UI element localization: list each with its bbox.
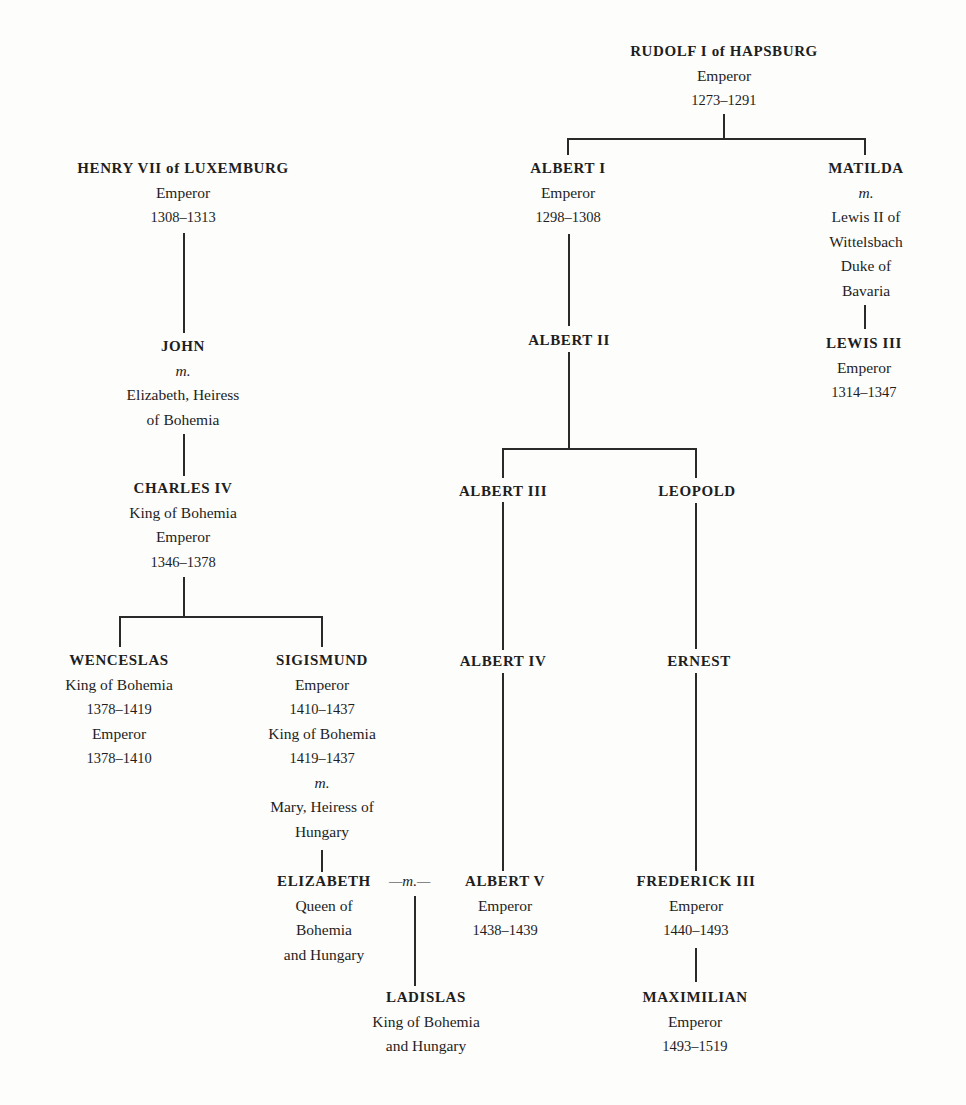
- edge-line: [183, 233, 185, 333]
- marriage-marker: m.: [828, 181, 904, 206]
- spouse-text: Bavaria: [828, 279, 904, 304]
- person-elizabeth: ELIZABETH Queen of Bohemia and Hungary: [277, 869, 371, 967]
- spouse-text: Duke of: [828, 254, 904, 279]
- marriage-marker: m.: [127, 359, 240, 384]
- person-title: and Hungary: [277, 943, 371, 968]
- spouse-text: Mary, Heiress of: [268, 795, 376, 820]
- person-name: LADISLAS: [372, 985, 480, 1010]
- person-ernest: ERNEST: [667, 649, 731, 674]
- person-title: Emperor: [530, 181, 605, 206]
- edge-line: [695, 448, 697, 478]
- person-years: 1273–1291: [630, 88, 818, 113]
- edge-line: [502, 502, 504, 650]
- person-title: King of Bohemia: [129, 501, 237, 526]
- edge-line: [568, 234, 570, 326]
- edge-line: [723, 114, 725, 139]
- person-name: ALBERT I: [530, 156, 605, 181]
- person-name: ELIZABETH: [277, 869, 371, 894]
- person-title: Emperor: [630, 64, 818, 89]
- spouse-text: Wittelsbach: [828, 230, 904, 255]
- person-albert-iii: ALBERT III: [459, 479, 547, 504]
- person-matilda: MATILDA m. Lewis II of Wittelsbach Duke …: [828, 156, 904, 303]
- person-name: SIGISMUND: [268, 648, 376, 673]
- person-years: 1298–1308: [530, 205, 605, 230]
- person-name: ALBERT II: [528, 328, 610, 353]
- person-years: 1438–1439: [465, 918, 545, 943]
- person-title: Queen of: [277, 894, 371, 919]
- person-lewis-iii: LEWIS III Emperor 1314–1347: [826, 331, 902, 405]
- person-years: 1493–1519: [642, 1034, 747, 1059]
- person-leopold: LEOPOLD: [658, 479, 736, 504]
- person-henry: HENRY VII of LUXEMBURG Emperor 1308–1313: [77, 156, 288, 230]
- person-rudolf: RUDOLF I of HAPSBURG Emperor 1273–1291: [630, 39, 818, 113]
- person-years: 1308–1313: [77, 205, 288, 230]
- edge-line: [502, 673, 504, 871]
- marriage-link: —m.—: [389, 869, 430, 893]
- edge-line: [119, 616, 322, 618]
- spouse-text: Lewis II of: [828, 205, 904, 230]
- person-name: ALBERT III: [459, 479, 547, 504]
- person-title: King of Bohemia: [372, 1010, 480, 1035]
- marriage-marker: m.: [268, 771, 376, 796]
- edge-line: [321, 616, 323, 647]
- person-name: RUDOLF I of HAPSBURG: [630, 39, 818, 64]
- person-title: Bohemia: [277, 918, 371, 943]
- person-name: WENCESLAS: [65, 648, 173, 673]
- person-years: 1378–1410: [65, 746, 173, 771]
- edge-line: [695, 948, 697, 982]
- person-years: 1419–1437: [268, 746, 376, 771]
- spouse-text: of Bohemia: [127, 408, 240, 433]
- person-name: HENRY VII of LUXEMBURG: [77, 156, 288, 181]
- person-title: Emperor: [77, 181, 288, 206]
- person-name: ALBERT IV: [460, 649, 547, 674]
- person-name: ALBERT V: [465, 869, 545, 894]
- person-years: 1378–1419: [65, 697, 173, 722]
- person-albert-ii: ALBERT II: [528, 328, 610, 353]
- edge-line: [864, 138, 866, 155]
- person-title: Emperor: [826, 356, 902, 381]
- edge-line: [567, 138, 866, 140]
- person-albert-iv: ALBERT IV: [460, 649, 547, 674]
- person-albert-v: ALBERT V Emperor 1438–1439: [465, 869, 545, 943]
- spouse-text: Elizabeth, Heiress: [127, 383, 240, 408]
- person-name: MATILDA: [828, 156, 904, 181]
- edge-line: [183, 434, 185, 476]
- person-years: 1410–1437: [268, 697, 376, 722]
- person-name: JOHN: [127, 334, 240, 359]
- person-years: 1314–1347: [826, 380, 902, 405]
- person-name: LEOPOLD: [658, 479, 736, 504]
- edge-line: [695, 673, 697, 871]
- edge-line: [864, 305, 866, 329]
- person-sigismund: SIGISMUND Emperor 1410–1437 King of Bohe…: [268, 648, 376, 844]
- person-charles-iv: CHARLES IV King of Bohemia Emperor 1346–…: [129, 476, 237, 574]
- person-name: LEWIS III: [826, 331, 902, 356]
- person-title: Emperor: [642, 1010, 747, 1035]
- person-title: Emperor: [465, 894, 545, 919]
- person-title: Emperor: [129, 525, 237, 550]
- person-years: 1346–1378: [129, 550, 237, 575]
- person-title: King of Bohemia: [65, 673, 173, 698]
- person-name: FREDERICK III: [636, 869, 755, 894]
- edge-line: [567, 138, 569, 155]
- person-title: Emperor: [65, 722, 173, 747]
- edge-line: [414, 896, 416, 986]
- person-frederick-iii: FREDERICK III Emperor 1440–1493: [636, 869, 755, 943]
- person-years: 1440–1493: [636, 918, 755, 943]
- edge-line: [502, 448, 697, 450]
- person-ladislas: LADISLAS King of Bohemia and Hungary: [372, 985, 480, 1059]
- person-name: MAXIMILIAN: [642, 985, 747, 1010]
- person-john: JOHN m. Elizabeth, Heiress of Bohemia: [127, 334, 240, 432]
- person-title: Emperor: [268, 673, 376, 698]
- edge-line: [695, 503, 697, 649]
- edge-line: [568, 352, 570, 449]
- person-title: King of Bohemia: [268, 722, 376, 747]
- edge-line: [502, 448, 504, 478]
- person-title: Emperor: [636, 894, 755, 919]
- person-title: and Hungary: [372, 1034, 480, 1059]
- person-name: ERNEST: [667, 649, 731, 674]
- edge-line: [183, 577, 185, 617]
- edge-line: [119, 616, 121, 647]
- person-name: CHARLES IV: [129, 476, 237, 501]
- spouse-text: Hungary: [268, 820, 376, 845]
- person-wenceslas: WENCESLAS King of Bohemia 1378–1419 Empe…: [65, 648, 173, 771]
